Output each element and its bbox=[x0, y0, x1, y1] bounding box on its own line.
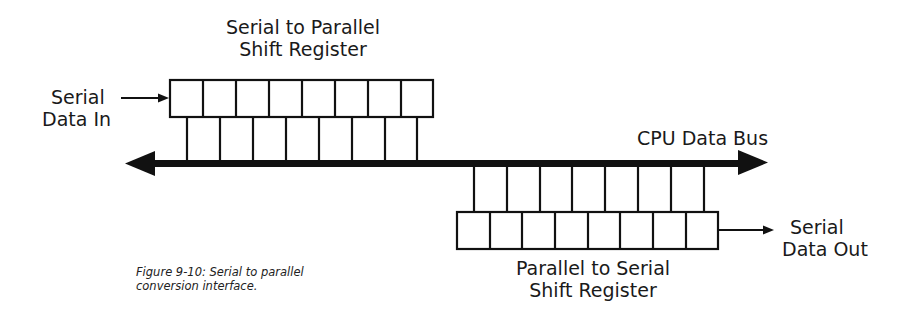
serial-data-out-line2: Data Out bbox=[782, 238, 868, 260]
figure-caption: Figure 9-10: Serial to parallel conversi… bbox=[136, 265, 304, 293]
bottom-parallel-lines bbox=[474, 165, 704, 212]
serial-data-out-label: Serial Data Out bbox=[782, 216, 868, 260]
serial-data-out-line1: Serial bbox=[782, 216, 868, 238]
serial-in-arrow bbox=[121, 94, 169, 103]
top-parallel-lines bbox=[187, 117, 417, 162]
top-register-title: Serial to Parallel Shift Register bbox=[198, 16, 408, 60]
bottom-register-title-line1: Parallel to Serial bbox=[478, 257, 708, 279]
serial-out-arrow bbox=[718, 226, 774, 235]
top-register-title-line1: Serial to Parallel bbox=[198, 16, 408, 38]
figure-caption-line2: conversion interface. bbox=[136, 279, 304, 293]
serial-data-in-line1: Serial bbox=[42, 86, 111, 108]
figure-caption-line1: Figure 9-10: Serial to parallel bbox=[136, 265, 304, 279]
bottom-register-title: Parallel to Serial Shift Register bbox=[478, 257, 708, 301]
bottom-register-title-line2: Shift Register bbox=[478, 279, 708, 301]
top-register-title-line2: Shift Register bbox=[198, 38, 408, 60]
serial-data-in-line2: Data In bbox=[42, 108, 111, 130]
top-shift-register bbox=[170, 80, 433, 117]
serial-data-in-label: Serial Data In bbox=[42, 86, 111, 130]
bottom-shift-register bbox=[457, 212, 718, 249]
cpu-data-bus-label: CPU Data Bus bbox=[637, 127, 768, 149]
